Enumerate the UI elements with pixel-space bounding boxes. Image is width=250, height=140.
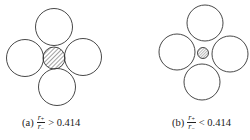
caption-b: (b) r+ r− < 0.414 — [172, 114, 231, 131]
caption-label: (a) — [22, 117, 34, 128]
denominator-subscript: − — [191, 125, 194, 131]
numerator-subscript: + — [41, 116, 44, 122]
anion-top — [187, 5, 223, 41]
caption-label: (b) — [172, 117, 184, 128]
denominator-subscript: − — [41, 125, 44, 131]
radius-ratio-fraction: r+ r− — [37, 114, 46, 131]
figure-a — [7, 9, 102, 106]
radius-ratio-fraction: r+ r− — [187, 114, 196, 131]
caption-relation: < 0.414 — [199, 117, 231, 128]
cation-center-hatched — [43, 47, 65, 69]
anion-right — [212, 36, 248, 72]
numerator-subscript: + — [191, 116, 194, 122]
anion-left — [7, 40, 44, 77]
anion-bottom — [184, 64, 220, 100]
anion-bottom — [39, 69, 76, 106]
cation-center-hatched — [198, 48, 209, 59]
caption-relation: > 0.414 — [48, 117, 80, 128]
anion-top — [36, 9, 73, 46]
figure-b — [159, 5, 248, 100]
anion-left — [159, 34, 195, 70]
caption-a: (a) r+ r− > 0.414 — [22, 114, 80, 131]
anion-right — [65, 39, 102, 76]
